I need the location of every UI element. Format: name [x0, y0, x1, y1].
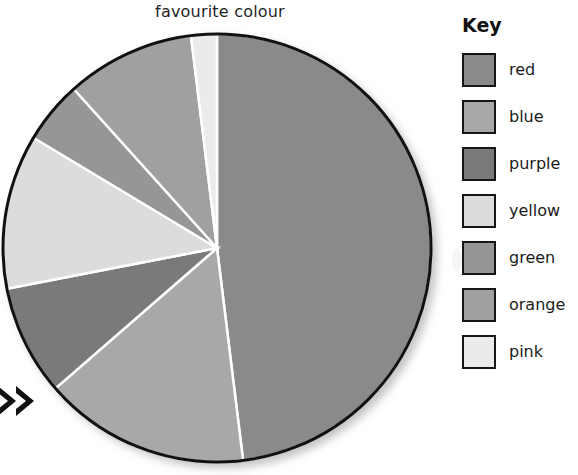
- legend-label-red: red: [509, 60, 535, 79]
- legend-list: redbluepurpleyellowgreenorangepink: [452, 46, 578, 375]
- legend-swatch-red: [462, 53, 496, 87]
- legend-label-orange: orange: [509, 295, 565, 314]
- pie-chart-page: favourite colour Key redbluepurpleyellow…: [0, 0, 578, 475]
- legend-swatch-yellow: [462, 194, 496, 228]
- legend: Key redbluepurpleyellowgreenorangepink: [452, 14, 578, 375]
- pie-slices-group: [3, 34, 431, 462]
- double-chevron-right-icon: [0, 382, 40, 420]
- legend-swatch-orange: [462, 288, 496, 322]
- legend-label-pink: pink: [509, 342, 543, 361]
- legend-swatch-green: [462, 241, 496, 275]
- legend-item-pink[interactable]: pink: [452, 328, 578, 375]
- legend-item-yellow[interactable]: yellow: [452, 187, 578, 234]
- pie-chart-svg: [0, 0, 446, 475]
- legend-label-green: green: [509, 248, 555, 267]
- pie-chart: favourite colour: [0, 0, 446, 475]
- legend-title: Key: [462, 14, 578, 36]
- pie-slice-red[interactable]: [217, 34, 431, 460]
- legend-swatch-blue: [462, 100, 496, 134]
- legend-item-purple[interactable]: purple: [452, 140, 578, 187]
- legend-label-blue: blue: [509, 107, 544, 126]
- legend-item-blue[interactable]: blue: [452, 93, 578, 140]
- legend-label-yellow: yellow: [509, 201, 560, 220]
- legend-item-green[interactable]: green: [452, 234, 578, 281]
- legend-label-purple: purple: [509, 154, 560, 173]
- legend-item-orange[interactable]: orange: [452, 281, 578, 328]
- legend-swatch-purple: [462, 147, 496, 181]
- legend-item-red[interactable]: red: [452, 46, 578, 93]
- legend-swatch-pink: [462, 335, 496, 369]
